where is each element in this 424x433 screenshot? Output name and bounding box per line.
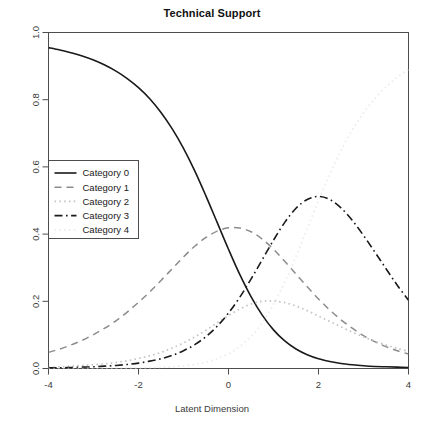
y-tick-label: 0.8	[30, 93, 41, 106]
x-axis-label: Latent Dimension	[0, 403, 424, 414]
y-tick-label: 0.2	[30, 295, 41, 308]
x-tick-label: 0	[226, 379, 231, 390]
x-tick-label: 2	[316, 379, 321, 390]
legend-label-1: Category 1	[83, 182, 129, 193]
x-tick-label: -2	[134, 379, 142, 390]
legend-label-4: Category 4	[83, 224, 129, 235]
legend-label-0: Category 0	[83, 167, 129, 178]
y-tick-label: 0.4	[30, 227, 41, 240]
series-line-2	[49, 301, 409, 367]
x-tick-label: 4	[406, 379, 411, 390]
series-line-1	[49, 227, 409, 354]
x-tick-label: -4	[44, 379, 52, 390]
legend-label-3: Category 3	[83, 210, 129, 221]
y-tick-label: 1.0	[30, 26, 41, 39]
y-tick-label: 0.6	[30, 160, 41, 173]
y-tick-label: 0.0	[30, 362, 41, 375]
chart-figure: Technical Support -4-20240.00.20.40.60.8…	[0, 0, 424, 433]
plot-canvas: -4-20240.00.20.40.60.81.0Category 0Categ…	[0, 0, 424, 433]
legend-label-2: Category 2	[83, 196, 129, 207]
